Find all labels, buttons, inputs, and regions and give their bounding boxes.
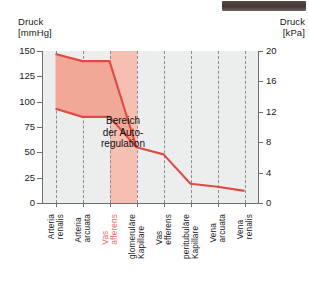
x-axis-label: glomeruläre Kapillare xyxy=(128,214,147,259)
left-tick-label: 25 xyxy=(0,173,35,183)
left-tick-mark xyxy=(37,127,42,128)
left-tick-label: 75 xyxy=(0,122,35,132)
x-axis-label: Vas efferens xyxy=(155,214,174,245)
x-axis-label: Vena arcuata xyxy=(209,214,228,242)
right-tick-label: 16 xyxy=(266,76,292,86)
left-tick-label: 50 xyxy=(0,147,35,157)
x-tick-mark xyxy=(56,203,57,207)
x-tick-mark xyxy=(245,203,246,207)
left-tick-mark xyxy=(37,51,42,52)
x-axis-label: Vas afferens xyxy=(101,214,120,245)
right-tick-mark xyxy=(258,51,263,52)
right-tick-label: 4 xyxy=(266,168,292,178)
left-tick-label: 100 xyxy=(0,97,35,107)
x-axis-label: Vena renalis xyxy=(236,214,255,239)
left-tick-label: 150 xyxy=(0,46,35,56)
left-tick-label: 125 xyxy=(0,71,35,81)
right-axis-title: Druck [kPa] xyxy=(280,16,305,38)
right-tick-label: 20 xyxy=(266,46,292,56)
right-tick-mark xyxy=(258,81,263,82)
x-axis-label: Arteria arcuata xyxy=(74,214,93,242)
right-tick-mark xyxy=(258,173,263,174)
right-tick-mark xyxy=(258,112,263,113)
right-tick-label: 0 xyxy=(266,198,292,208)
right-tick-mark xyxy=(258,203,263,204)
left-tick-mark xyxy=(37,203,42,204)
left-tick-mark xyxy=(37,178,42,179)
scan-artifact xyxy=(222,1,306,11)
right-tick-label: 8 xyxy=(266,137,292,147)
left-tick-mark xyxy=(37,152,42,153)
x-tick-mark xyxy=(137,203,138,207)
left-tick-mark xyxy=(37,76,42,77)
left-tick-label: 0 xyxy=(0,198,35,208)
x-tick-mark xyxy=(83,203,84,207)
x-tick-mark xyxy=(218,203,219,207)
left-axis-title: Druck [mmHg] xyxy=(18,16,52,38)
x-axis-label: Arteria renalis xyxy=(47,214,66,239)
autoregulation-annotation: Bereich der Auto- regulation xyxy=(88,115,158,150)
x-axis-label: peritubuläre Kapillare xyxy=(182,214,201,259)
left-tick-mark xyxy=(37,102,42,103)
bottom-axis-line xyxy=(42,203,258,204)
right-tick-label: 12 xyxy=(266,107,292,117)
x-tick-mark xyxy=(191,203,192,207)
right-axis-line xyxy=(258,51,259,203)
right-tick-mark xyxy=(258,142,263,143)
chart-plot-area: Bereich der Auto- regulation xyxy=(42,51,258,203)
x-tick-mark xyxy=(164,203,165,207)
left-axis-line xyxy=(42,51,43,203)
x-tick-mark xyxy=(110,203,111,207)
